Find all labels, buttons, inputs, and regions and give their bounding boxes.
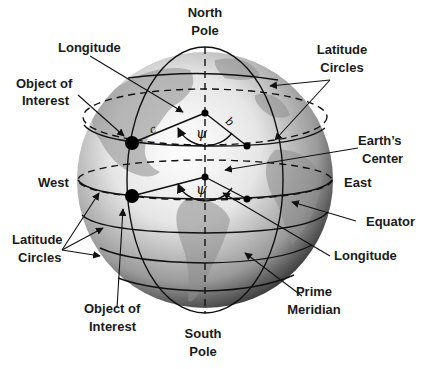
object-of-interest-lower bbox=[125, 189, 139, 203]
latitude-label-top-1: Latitude bbox=[317, 42, 368, 57]
prime-meridian-label-1: Prime bbox=[296, 284, 332, 299]
east-label: East bbox=[344, 175, 372, 190]
object-label-top-2: Interest bbox=[22, 93, 70, 108]
earth-center-point bbox=[202, 174, 209, 181]
object-of-interest-upper bbox=[125, 136, 139, 150]
earth-center-label-1: Earth’s bbox=[358, 133, 402, 148]
meridian-point-lower bbox=[244, 196, 251, 203]
psi-upper: ψ bbox=[196, 125, 208, 141]
latitude-center-point bbox=[202, 110, 209, 117]
west-label: West bbox=[38, 175, 69, 190]
object-label-top-1: Object of bbox=[16, 76, 73, 91]
latitude-label-bottom-1: Latitude bbox=[12, 232, 63, 247]
longitude-label-top: Longitude bbox=[58, 40, 121, 55]
north-pole-label-1: North bbox=[188, 5, 223, 20]
globe-diagram: ψ ψ c b North Pole Longitude Object of I… bbox=[0, 0, 424, 369]
meridian-point-upper bbox=[244, 143, 251, 150]
earth-center-label-2: Center bbox=[362, 151, 403, 166]
longitude-label-bottom: Longitude bbox=[334, 248, 397, 263]
prime-meridian-label-2: Meridian bbox=[287, 302, 341, 317]
south-pole-label-1: South bbox=[185, 326, 222, 341]
object-label-bottom-2: Interest bbox=[89, 319, 137, 334]
object-label-bottom-1: Object of bbox=[84, 301, 141, 316]
latitude-label-top-2: Circles bbox=[320, 60, 363, 75]
north-pole-label-2: Pole bbox=[191, 23, 218, 38]
latitude-label-bottom-2: Circles bbox=[18, 250, 61, 265]
equator-label: Equator bbox=[366, 214, 415, 229]
south-pole-label-2: Pole bbox=[189, 344, 216, 359]
psi-lower: ψ bbox=[196, 181, 208, 197]
